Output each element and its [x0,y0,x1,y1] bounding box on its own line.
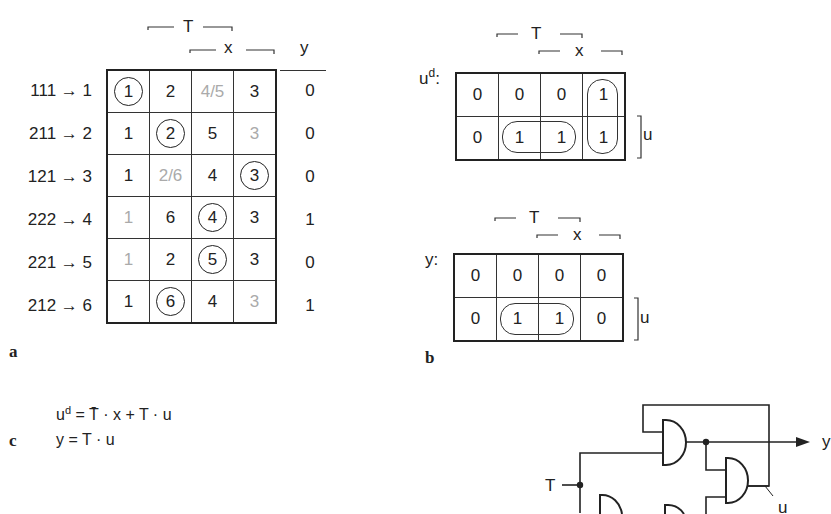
output-y-value: 0 [290,124,330,144]
table-cell: 4/5 [192,70,234,113]
table-cell: 3 [234,281,277,324]
table-row: 1 2 5 3 [107,239,276,281]
table-row: 1 6 4 3 [107,197,276,239]
table-cell: 6 [150,197,192,239]
table-cell: 1 [107,239,150,281]
kmap-ud-side-u: u [643,125,652,145]
logic-circuit [540,395,829,514]
table-row: 1 2/6 4 3 [107,155,276,197]
and-gate-icon [726,458,748,503]
equation-ud: ud = T̄ · x + T · u [56,404,172,424]
stable-state-circle: 3 [240,161,269,190]
table-cell: 5 [192,239,234,281]
kmap-cell: 0 [539,254,581,298]
row-label: 211 → 2 [0,124,92,144]
equation-y: y = T · u [56,431,115,449]
table-cell: 4 [192,281,234,324]
stable-state-circle: 2 [156,119,185,148]
table-cell: 2 [150,113,192,155]
panel-label-a: a [9,342,18,362]
circuit-feedback-u: u [778,498,787,514]
header-x: x [224,38,233,58]
table-cell: 1 [107,70,150,113]
table-cell: 3 [234,197,277,239]
stable-state-circle: 4 [198,203,227,232]
header-T: T [183,17,193,37]
output-y-value: 1 [290,296,330,316]
stable-state-circle: 6 [156,287,185,316]
stable-state-circle: 1 [114,77,143,106]
table-cell: 3 [234,70,277,113]
kmap-cell: 0 [499,73,541,117]
table-cell: 3 [234,155,277,197]
junction-dot-icon [703,439,709,445]
kmap-y-title: y: [425,250,438,270]
kmap-cell: 0 [581,298,624,342]
row-label: 111 → 1 [0,81,92,101]
y-underline [280,70,326,71]
table-cell: 2 [150,70,192,113]
table-cell: 5 [192,113,234,155]
panel-label-b: b [425,348,434,368]
table-cell: 6 [150,281,192,324]
kmap-y-side-u: u [640,308,649,328]
panel-label-c: c [9,431,17,451]
kmap-y-header-T: T [529,208,539,228]
circuit-input-T: T [545,476,555,496]
row-label: 222 → 4 [0,210,92,230]
table-cell: 2 [150,239,192,281]
table-cell: 4 [192,197,234,239]
row-label: 212 → 6 [0,296,92,316]
output-y-value: 0 [290,167,330,187]
table-row: 1 2 5 3 [107,113,276,155]
table-cell: 4 [192,155,234,197]
kmap-cell: 0 [454,298,497,342]
table-row: 1 2 4/5 3 [107,70,276,113]
kmap-cell: 0 [497,254,539,298]
circuit-output-y: y [822,432,831,452]
row-label: 121 → 3 [0,167,92,187]
flow-table: 1 2 4/5 3 1 2 5 3 1 2/6 4 3 1 6 4 3 1 2 … [106,69,277,324]
table-cell: 2/6 [150,155,192,197]
header-y: y [300,38,309,58]
kmap-ud-title: ud: [419,66,440,89]
table-cell: 3 [234,239,277,281]
kmap-cell: 0 [541,73,583,117]
row-label: 221 → 5 [0,253,92,273]
table-header-brackets [140,18,340,68]
table-row: 1 6 4 3 [107,281,276,324]
junction-dot-icon [577,482,583,488]
table-cell: 3 [234,113,277,155]
and-gate-icon [600,495,622,514]
kmap-y-header-brackets [488,209,638,249]
stable-state-circle: 5 [198,245,227,274]
kmap-cell: 0 [456,73,499,117]
table-cell: 1 [107,197,150,239]
kmap-ud-header-brackets [490,25,640,65]
table-cell: 1 [107,281,150,324]
arrow-icon [796,437,810,447]
output-y-value: 1 [290,210,330,230]
kmap-y-group-row [500,303,574,335]
output-y-value: 0 [290,253,330,273]
output-y-value: 0 [290,81,330,101]
kmap-cell: 0 [581,254,624,298]
kmap-ud-group-row [502,121,576,153]
table-cell: 1 [107,155,150,197]
and-gate-icon [663,420,686,465]
kmap-ud-group-col [587,79,618,154]
kmap-cell: 0 [456,117,499,161]
kmap-y-header-x: x [573,225,582,245]
kmap-row: 0 0 0 0 [454,254,623,298]
kmap-ud-header-x: x [575,41,584,61]
kmap-ud-header-T: T [531,24,541,44]
and-gate-icon [665,505,684,514]
table-cell: 1 [107,113,150,155]
kmap-cell: 0 [454,254,497,298]
